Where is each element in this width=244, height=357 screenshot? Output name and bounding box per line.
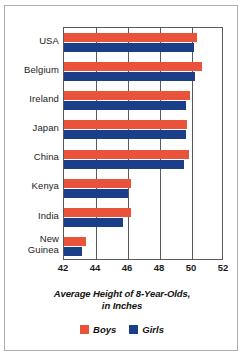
x-tick-label-44: 44 — [90, 262, 101, 273]
category-label-line: Japan — [0, 123, 59, 134]
bar-ireland-girls — [64, 101, 186, 110]
bar-japan-girls — [64, 130, 186, 139]
category-label-new-guinea: NewGuinea — [0, 234, 59, 255]
legend-swatch-boys — [80, 325, 89, 334]
x-tick-label-46: 46 — [122, 262, 133, 273]
category-label-kenya: Kenya — [0, 181, 59, 192]
bar-usa-girls — [64, 43, 194, 52]
bar-new-guinea-girls — [64, 247, 82, 256]
bar-belgium-girls — [64, 72, 195, 81]
category-label-line: China — [0, 152, 59, 163]
bar-kenya-boys — [64, 179, 131, 188]
bar-china-girls — [64, 160, 184, 169]
category-label-china: China — [0, 152, 59, 163]
category-label-ireland: Ireland — [0, 94, 59, 105]
x-tick-label-50: 50 — [186, 262, 197, 273]
x-axis-title-line-2: in Inches — [14, 300, 230, 312]
category-label-usa: USA — [0, 36, 59, 47]
x-axis-title-line-1: Average Height of 8-Year-Olds, — [54, 288, 191, 299]
bar-new-guinea-boys — [64, 237, 86, 246]
category-label-line: Kenya — [0, 181, 59, 192]
legend-item-boys: Boys — [80, 324, 116, 335]
x-tick-label-52: 52 — [218, 262, 229, 273]
legend-label-boys: Boys — [93, 324, 116, 335]
bar-belgium-boys — [64, 62, 202, 71]
category-label-line: Belgium — [0, 65, 59, 76]
x-axis-title: Average Height of 8-Year-Olds, in Inches — [14, 288, 230, 312]
bar-india-girls — [64, 218, 123, 227]
chart-legend: BoysGirls — [14, 324, 230, 335]
plot-area — [63, 27, 223, 260]
category-label-line: India — [0, 211, 59, 222]
legend-swatch-girls — [129, 325, 138, 334]
x-tick-label-42: 42 — [58, 262, 69, 273]
x-axis-tick-labels: 424446485052 — [63, 262, 223, 276]
category-label-line: USA — [0, 36, 59, 47]
category-label-line: Ireland — [0, 94, 59, 105]
bar-ireland-boys — [64, 91, 190, 100]
legend-item-girls: Girls — [129, 324, 164, 335]
category-label-line: Guinea — [0, 245, 59, 256]
category-label-belgium: Belgium — [0, 65, 59, 76]
bar-japan-boys — [64, 120, 187, 129]
category-label-japan: Japan — [0, 123, 59, 134]
bar-india-boys — [64, 208, 131, 217]
bar-china-boys — [64, 150, 189, 159]
bar-usa-boys — [64, 33, 197, 42]
x-tick-label-48: 48 — [154, 262, 165, 273]
category-label-india: India — [0, 211, 59, 222]
chart-figure: USABelgiumIrelandJapanChinaKenyaIndiaNew… — [0, 0, 244, 357]
bar-kenya-girls — [64, 189, 128, 198]
legend-label-girls: Girls — [142, 324, 164, 335]
plot-wrapper: USABelgiumIrelandJapanChinaKenyaIndiaNew… — [0, 0, 244, 357]
category-axis-labels: USABelgiumIrelandJapanChinaKenyaIndiaNew… — [0, 27, 59, 260]
